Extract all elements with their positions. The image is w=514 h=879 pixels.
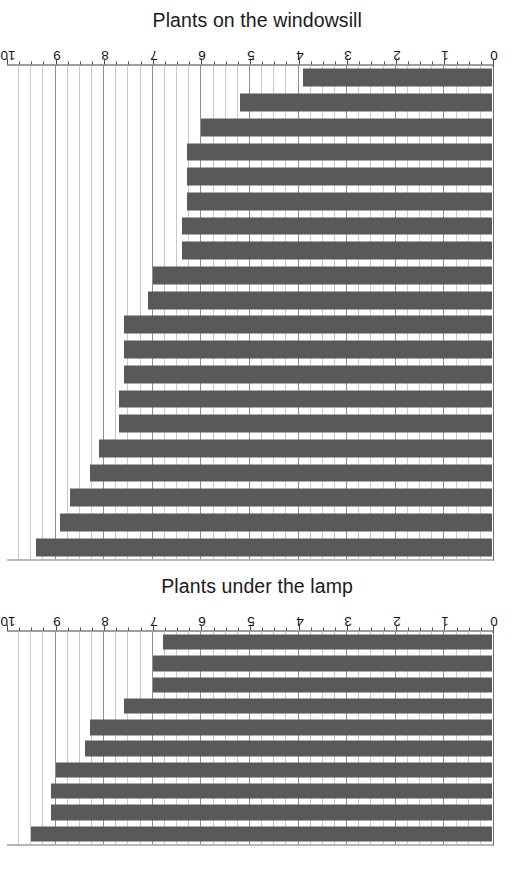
tick-mark-minor xyxy=(177,61,178,65)
tick-mark-major xyxy=(7,58,8,64)
tick-mark-minor xyxy=(286,627,287,631)
chart-2-tick-marks xyxy=(8,630,494,843)
tick-mark-major xyxy=(347,624,348,630)
chart-2-title-container: Plants under the lamp xyxy=(0,568,514,602)
tick-mark-minor xyxy=(165,627,166,631)
axis-tick-label: 5 xyxy=(247,614,255,628)
tick-mark-major xyxy=(201,624,202,630)
axis-tick-label: 8 xyxy=(101,614,109,628)
tick-mark-minor xyxy=(384,61,385,65)
tick-mark-major xyxy=(250,624,251,630)
tick-mark-minor xyxy=(68,61,69,65)
tick-mark-minor xyxy=(116,61,117,65)
tick-mark-minor xyxy=(141,627,142,631)
tick-mark-major xyxy=(347,58,348,64)
tick-mark-minor xyxy=(92,627,93,631)
tick-mark-minor xyxy=(214,627,215,631)
axis-tick-label: 0 xyxy=(490,614,498,628)
tick-mark-minor xyxy=(311,61,312,65)
axis-tick-label: 3 xyxy=(344,614,352,628)
tick-mark-major xyxy=(56,624,57,630)
tick-mark-minor xyxy=(457,627,458,631)
tick-mark-minor xyxy=(359,61,360,65)
tick-mark-major xyxy=(201,58,202,64)
tick-mark-minor xyxy=(80,627,81,631)
tick-mark-minor xyxy=(469,627,470,631)
tick-mark-minor xyxy=(481,627,482,631)
tick-mark-minor xyxy=(311,627,312,631)
tick-mark-minor xyxy=(432,61,433,65)
tick-mark-minor xyxy=(129,61,130,65)
tick-mark-major xyxy=(396,624,397,630)
tick-mark-minor xyxy=(432,627,433,631)
axis-tick-label: 8 xyxy=(101,48,109,62)
tick-mark-major xyxy=(299,624,300,630)
chart-1-tick-marks xyxy=(8,64,494,558)
axis-tick-label: 9 xyxy=(53,614,61,628)
axis-tick-label: 7 xyxy=(150,48,158,62)
chart-panel-windowsill: Plants on the windowsill 012345678910 xyxy=(0,0,514,566)
tick-mark-minor xyxy=(19,61,20,65)
tick-mark-minor xyxy=(335,61,336,65)
tick-mark-minor xyxy=(177,627,178,631)
tick-mark-minor xyxy=(335,627,336,631)
axis-tick-label: 5 xyxy=(247,48,255,62)
tick-mark-minor xyxy=(469,61,470,65)
tick-mark-major xyxy=(104,58,105,64)
tick-mark-major xyxy=(444,624,445,630)
tick-mark-minor xyxy=(408,61,409,65)
tick-mark-minor xyxy=(262,627,263,631)
chart-2: Plants under the lamp 012345678910 xyxy=(0,566,514,851)
tick-mark-minor xyxy=(129,627,130,631)
chart-1-axis-tick-labels: 012345678910 xyxy=(0,36,514,62)
axis-tick-label: 6 xyxy=(199,614,207,628)
tick-mark-major xyxy=(250,58,251,64)
tick-mark-minor xyxy=(238,61,239,65)
tick-mark-minor xyxy=(408,627,409,631)
axis-tick-label: 2 xyxy=(393,48,401,62)
tick-mark-minor xyxy=(165,61,166,65)
tick-mark-minor xyxy=(286,61,287,65)
tick-mark-minor xyxy=(31,61,32,65)
axis-tick-label: 3 xyxy=(344,48,352,62)
tick-mark-minor xyxy=(43,61,44,65)
tick-mark-major xyxy=(153,624,154,630)
tick-mark-minor xyxy=(262,61,263,65)
tick-mark-minor xyxy=(274,627,275,631)
axis-tick-label: 2 xyxy=(393,614,401,628)
axis-tick-label: 0 xyxy=(490,48,498,62)
tick-mark-minor xyxy=(238,627,239,631)
tick-mark-major xyxy=(493,58,494,64)
tick-mark-minor xyxy=(384,627,385,631)
tick-mark-minor xyxy=(481,61,482,65)
axis-tick-label: 9 xyxy=(53,48,61,62)
axis-tick-label: 6 xyxy=(199,48,207,62)
figure-page: Plants on the windowsill 012345678910 Pl… xyxy=(0,0,514,879)
axis-tick-label: 4 xyxy=(296,614,304,628)
axis-tick-label: 1 xyxy=(442,614,450,628)
tick-mark-minor xyxy=(457,61,458,65)
tick-mark-minor xyxy=(141,61,142,65)
tick-mark-minor xyxy=(19,627,20,631)
tick-mark-major xyxy=(104,624,105,630)
chart-panel-lamp: Plants under the lamp 012345678910 xyxy=(0,566,514,851)
chart-2-axis-tick-labels: 012345678910 xyxy=(0,602,514,628)
tick-mark-major xyxy=(56,58,57,64)
tick-mark-minor xyxy=(372,627,373,631)
tick-mark-minor xyxy=(420,61,421,65)
tick-mark-major xyxy=(444,58,445,64)
tick-mark-minor xyxy=(323,627,324,631)
tick-mark-minor xyxy=(372,61,373,65)
tick-mark-major xyxy=(7,624,8,630)
chart-2-title: Plants under the lamp xyxy=(161,574,353,597)
tick-mark-major xyxy=(153,58,154,64)
tick-mark-minor xyxy=(68,627,69,631)
tick-mark-minor xyxy=(116,627,117,631)
axis-tick-label: 10 xyxy=(0,614,15,628)
tick-mark-major xyxy=(299,58,300,64)
axis-tick-label: 10 xyxy=(0,48,15,62)
tick-mark-minor xyxy=(274,61,275,65)
tick-mark-minor xyxy=(323,61,324,65)
axis-tick-label: 4 xyxy=(296,48,304,62)
tick-mark-minor xyxy=(43,627,44,631)
